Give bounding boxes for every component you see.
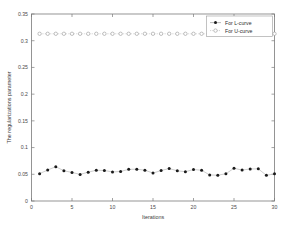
data-point-marker <box>127 32 130 35</box>
data-point-marker <box>46 32 49 35</box>
data-point-marker <box>200 169 203 172</box>
data-point-marker <box>176 169 179 172</box>
data-point-marker <box>78 32 81 35</box>
x-tick-label: 30 <box>272 204 278 210</box>
y-tick-label: 0.2 <box>21 91 28 97</box>
data-point-marker <box>79 173 82 176</box>
data-point-marker <box>143 169 146 172</box>
data-point-marker <box>273 32 276 35</box>
data-point-marker <box>54 165 57 168</box>
data-point-marker <box>119 32 122 35</box>
data-point-marker <box>38 32 41 35</box>
data-point-marker <box>103 32 106 35</box>
legend-label: For U-curve <box>225 28 252 34</box>
data-point-marker <box>184 170 187 173</box>
data-point-marker <box>159 32 162 35</box>
data-point-marker <box>62 169 65 172</box>
x-tick-label: 0 <box>30 204 33 210</box>
data-point-marker <box>95 32 98 35</box>
data-point-marker <box>111 170 114 173</box>
data-point-marker <box>71 171 74 174</box>
legend-sample-marker <box>214 21 217 24</box>
chart-plot: 00.050.10.150.20.250.30.35051015202530 F… <box>0 0 289 238</box>
axes-group: 00.050.10.150.20.250.30.35051015202530 <box>18 11 278 210</box>
data-point-marker <box>200 32 203 35</box>
data-point-marker <box>135 168 138 171</box>
data-point-marker <box>241 169 244 172</box>
data-point-marker <box>62 32 65 35</box>
data-point-marker <box>87 32 90 35</box>
data-point-marker <box>111 32 114 35</box>
y-tick-label: 0.1 <box>21 144 28 150</box>
legend-sample-marker <box>214 29 217 32</box>
data-point-marker <box>249 167 252 170</box>
data-point-marker <box>184 32 187 35</box>
data-point-marker <box>152 172 155 175</box>
data-point-marker <box>273 172 276 175</box>
y-tick-label: 0.15 <box>18 118 28 124</box>
data-point-marker <box>208 173 211 176</box>
data-point-marker <box>87 171 90 174</box>
data-point-marker <box>176 32 179 35</box>
y-tick-label: 0.25 <box>18 64 28 70</box>
x-tick-label: 20 <box>191 204 197 210</box>
data-point-marker <box>151 32 154 35</box>
y-axis-title: The regularizations parameter <box>6 71 12 143</box>
y-tick-label: 0.05 <box>18 171 28 177</box>
y-tick-label: 0.35 <box>18 11 28 17</box>
x-tick-label: 10 <box>110 204 116 210</box>
data-point-marker <box>257 167 260 170</box>
x-tick-label: 15 <box>150 204 156 210</box>
data-point-marker <box>135 32 138 35</box>
data-point-marker <box>192 32 195 35</box>
data-point-marker <box>119 170 122 173</box>
data-point-marker <box>143 32 146 35</box>
data-point-marker <box>54 32 57 35</box>
data-point-marker <box>103 169 106 172</box>
legend-label: For L-curve <box>225 20 252 26</box>
series-line <box>40 167 275 176</box>
axis-titles-group: IterationsThe regularizations parameter <box>6 71 165 220</box>
data-point-marker <box>127 168 130 171</box>
data-point-marker <box>46 169 49 172</box>
y-tick-label: 0 <box>25 198 28 204</box>
x-axis-title: Iterations <box>142 214 164 220</box>
figure-canvas: 00.050.10.150.20.250.30.35051015202530 F… <box>0 0 289 238</box>
x-tick-label: 5 <box>71 204 74 210</box>
y-tick-label: 0.3 <box>21 38 28 44</box>
data-point-marker <box>70 32 73 35</box>
data-point-marker <box>216 174 219 177</box>
data-point-marker <box>233 167 236 170</box>
data-point-marker <box>95 169 98 172</box>
series-group <box>38 32 276 177</box>
data-point-marker <box>168 167 171 170</box>
data-point-marker <box>168 32 171 35</box>
data-point-marker <box>38 172 41 175</box>
data-point-marker <box>224 172 227 175</box>
data-point-marker <box>265 174 268 177</box>
legend-group: For L-curveFor U-curve <box>207 16 273 37</box>
data-point-marker <box>160 169 163 172</box>
x-tick-label: 25 <box>231 204 237 210</box>
series-l-curve <box>38 165 276 177</box>
data-point-marker <box>192 168 195 171</box>
